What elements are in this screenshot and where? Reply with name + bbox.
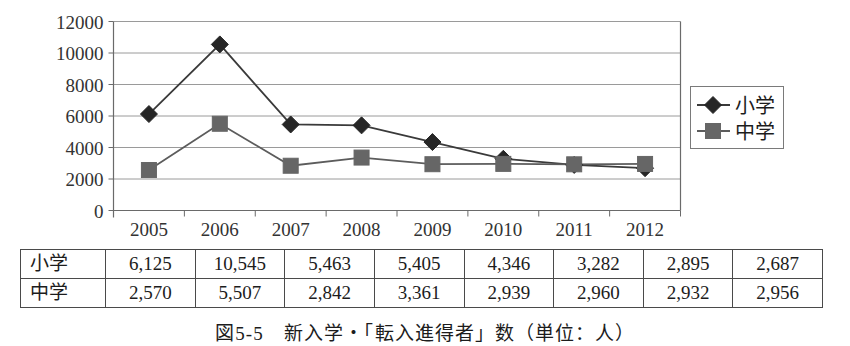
data-point-square xyxy=(212,116,227,131)
y-axis-tick-label: 4000 xyxy=(66,138,104,159)
table-cell: 4,346 xyxy=(464,250,554,279)
data-table-wrapper: 小学6,12510,5455,4635,4054,3463,2822,8952,… xyxy=(20,249,823,308)
data-point-square xyxy=(638,156,653,171)
axes xyxy=(114,22,681,218)
data-point-square xyxy=(283,158,298,173)
data-point-square xyxy=(496,156,511,171)
table-cell: 5,463 xyxy=(285,250,375,279)
series-line xyxy=(149,44,645,168)
table-cell: 5,405 xyxy=(374,250,464,279)
table-cell: 2,960 xyxy=(554,279,644,308)
series-2-markers xyxy=(141,116,652,177)
series-1-markers xyxy=(140,36,653,177)
table-cell: 2,956 xyxy=(733,279,823,308)
x-axis-tick-label: 2005 xyxy=(130,219,168,239)
x-axis-tick-label: 2012 xyxy=(626,219,664,239)
y-axis-tick-label: 6000 xyxy=(66,106,104,127)
table-cell: 2,939 xyxy=(464,279,554,308)
table-cell: 3,361 xyxy=(374,279,464,308)
line-chart: 0200040006000800010000120002005200620072… xyxy=(0,0,850,238)
data-point-square xyxy=(354,150,369,165)
data-point-diamond xyxy=(424,134,441,151)
y-axis-tick-label: 0 xyxy=(94,201,104,222)
table-cell: 5,507 xyxy=(195,279,285,308)
data-point-square xyxy=(425,157,440,172)
table-row: 小学6,12510,5455,4635,4054,3463,2822,8952,… xyxy=(21,250,823,279)
x-axis-tick-label: 2006 xyxy=(201,219,239,239)
table-cell: 6,125 xyxy=(106,250,196,279)
x-axis-tick-label: 2008 xyxy=(343,219,381,239)
data-point-square xyxy=(567,157,582,172)
table-row: 中学2,5705,5072,8423,3612,9392,9602,9322,9… xyxy=(21,279,823,308)
y-axis-tick-label: 8000 xyxy=(66,75,104,96)
table-row-header: 小学 xyxy=(21,250,106,279)
table-row-header: 中学 xyxy=(21,279,106,308)
table-cell: 2,842 xyxy=(285,279,375,308)
legend-label: 中学 xyxy=(735,121,775,143)
figure-caption: 図5-5 新入学・「転入進得者」数（単位：人） xyxy=(0,322,850,346)
table-cell: 2,895 xyxy=(643,250,733,279)
x-axis-tick-label: 2010 xyxy=(484,219,522,239)
x-axis-tick-label: 2009 xyxy=(413,219,451,239)
chart-legend: 小学中学 xyxy=(691,87,784,149)
y-axis-tick-label: 10000 xyxy=(56,43,104,64)
data-point-square xyxy=(141,163,156,178)
table-cell: 2,932 xyxy=(643,279,733,308)
y-axis-tick-label: 12000 xyxy=(56,12,104,33)
legend-marker-square xyxy=(706,124,721,139)
legend-label: 小学 xyxy=(735,95,775,117)
series-1 xyxy=(149,44,645,168)
table-cell: 2,687 xyxy=(733,250,823,279)
table-cell: 3,282 xyxy=(554,250,644,279)
y-axis-tick-label: 2000 xyxy=(66,169,104,190)
x-axis-tick-label: 2007 xyxy=(272,219,310,239)
x-axis: 20052006200720082009201020112012 xyxy=(114,211,681,239)
data-table: 小学6,12510,5455,4635,4054,3463,2822,8952,… xyxy=(20,249,823,308)
chart-canvas: 0200040006000800010000120002005200620072… xyxy=(0,0,850,238)
data-point-diamond xyxy=(353,117,370,134)
table-cell: 2,570 xyxy=(106,279,196,308)
table-cell: 10,545 xyxy=(195,250,285,279)
x-axis-tick-label: 2011 xyxy=(556,219,593,239)
